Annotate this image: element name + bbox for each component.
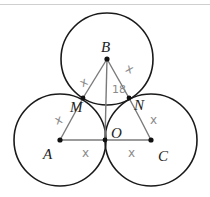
mark-oc: x [128,146,135,160]
geometry-diagram: B M N O A C x x 18 x x x x [0,0,210,197]
mark-ao: x [82,146,89,160]
label-n: N [133,97,145,113]
label-o: O [111,125,122,141]
point-a [57,137,62,142]
mark-nc: x [150,113,157,127]
point-c [148,137,153,142]
mark-bn: x [123,61,135,77]
segment-bm [83,59,107,98]
point-o [103,138,108,143]
mark-am: x [53,112,64,128]
label-m: M [69,99,84,115]
point-b [104,56,109,61]
label-c: C [158,148,169,164]
mark-bm: x [77,74,90,90]
point-n [127,96,132,101]
mark-bo: 18 [112,83,126,96]
label-b: B [101,39,110,55]
label-a: A [42,146,53,162]
